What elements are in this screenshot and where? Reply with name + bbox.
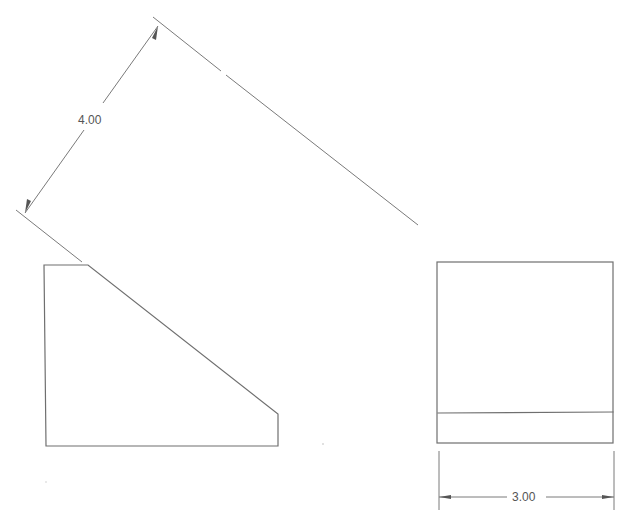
dimension-label-inclined: 4.00 [77,113,102,127]
dimension-line-inclined-a [103,26,158,103]
stray-mark [322,443,324,445]
end-view-outline [437,262,613,443]
extension-line-upper-b [226,75,418,225]
extension-line-upper-a [153,17,221,71]
dimension-label-width: 3.00 [511,490,536,504]
arrowhead-icon [602,495,614,499]
technical-drawing [0,0,627,524]
end-view-edge-line [438,412,613,413]
stray-mark [45,481,47,483]
side-view-outline [44,265,278,446]
dimension-line-inclined-b [25,130,84,213]
extension-line-lower [16,210,82,262]
arrowhead-icon [439,495,451,499]
